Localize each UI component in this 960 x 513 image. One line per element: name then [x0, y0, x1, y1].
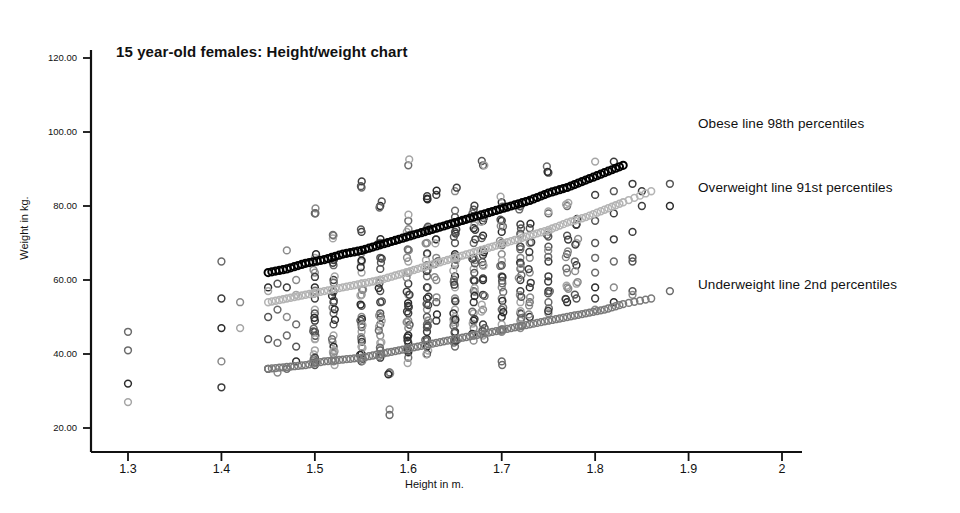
scatter-marker — [610, 258, 617, 265]
scatter-marker — [125, 328, 132, 335]
x-axis-tick-label: 1.7 — [482, 462, 522, 476]
scatter-marker — [610, 188, 617, 195]
scatter-marker — [293, 277, 300, 284]
scatter-marker — [218, 295, 225, 302]
scatter-marker — [666, 288, 673, 295]
scatter-marker — [312, 274, 319, 281]
scatter-marker — [332, 316, 339, 323]
y-axis-ticks — [83, 58, 91, 428]
scatter-marker — [527, 220, 534, 227]
scatter-marker — [237, 325, 244, 332]
scatter-marker — [283, 247, 290, 254]
scatter-marker — [610, 210, 617, 217]
scatter-marker — [629, 229, 636, 236]
scatter-marker — [274, 306, 281, 313]
scatter-marker — [592, 217, 599, 224]
x-axis-ticks — [128, 452, 782, 461]
scatter-marker — [592, 192, 599, 199]
scatter-marker — [592, 269, 599, 276]
scatter-points-layer — [125, 156, 674, 418]
y-axis-title: Weight in kg. — [18, 178, 30, 278]
y-axis-tick-label: 120.00 — [33, 52, 77, 63]
scatter-marker — [237, 299, 244, 306]
scatter-marker — [610, 284, 617, 291]
scatter-marker — [433, 294, 440, 301]
scatter-marker — [629, 180, 636, 187]
x-axis-tick-label: 1.4 — [201, 462, 241, 476]
scatter-marker — [218, 384, 225, 391]
scatter-marker — [125, 347, 132, 354]
scatter-marker — [432, 240, 439, 247]
scatter-marker — [218, 358, 225, 365]
scatter-marker — [293, 343, 300, 350]
scatter-marker — [274, 340, 281, 347]
scatter-marker — [433, 187, 440, 194]
scatter-marker — [610, 236, 617, 243]
scatter-marker — [125, 380, 132, 387]
scatter-marker — [666, 180, 673, 187]
scatter-marker — [283, 314, 290, 321]
y-axis-tick-label: 20.00 — [33, 422, 77, 433]
chart-title: 15 year-old females: Height/weight chart — [116, 43, 408, 60]
scatter-marker — [592, 240, 599, 247]
scatter-marker — [592, 295, 599, 302]
plot-area — [0, 0, 960, 513]
annotation-obese-line: Obese line 98th percentiles — [698, 116, 864, 131]
scatter-marker — [218, 258, 225, 265]
scatter-marker — [283, 284, 290, 291]
scatter-marker — [274, 280, 281, 287]
scatter-marker — [283, 332, 290, 339]
y-axis-tick-label: 60.00 — [33, 274, 77, 285]
y-axis-tick-label: 80.00 — [33, 200, 77, 211]
scatter-marker — [125, 399, 132, 406]
scatter-marker — [265, 314, 272, 321]
annotation-underweight-line: Underweight line 2nd percentiles — [698, 277, 897, 292]
scatter-marker — [293, 321, 300, 328]
scatter-marker — [472, 226, 479, 233]
scatter-marker — [478, 308, 485, 315]
scatter-marker — [527, 294, 534, 301]
x-axis-title: Height in m. — [405, 478, 464, 490]
axis-lines — [91, 50, 802, 452]
scatter-marker — [592, 158, 599, 165]
scatter-marker — [666, 203, 673, 210]
scatter-marker — [563, 265, 570, 272]
x-axis-tick-label: 2 — [762, 462, 802, 476]
y-axis-tick-label: 100.00 — [33, 126, 77, 137]
scatter-marker — [527, 279, 534, 286]
scatter-marker — [218, 325, 225, 332]
x-axis-tick-label: 1.9 — [669, 462, 709, 476]
x-axis-tick-label: 1.5 — [295, 462, 335, 476]
x-axis-tick-label: 1.6 — [388, 462, 428, 476]
x-axis-tick-label: 1.8 — [575, 462, 615, 476]
annotation-overweight-line: Overweight line 91st percentiles — [698, 180, 893, 195]
x-axis-tick-label: 1.3 — [108, 462, 148, 476]
scatter-marker — [592, 254, 599, 261]
height-weight-scatter-chart: 15 year-old females: Height/weight chart… — [0, 0, 960, 513]
y-axis-tick-label: 40.00 — [33, 348, 77, 359]
scatter-marker — [592, 284, 599, 291]
scatter-marker — [265, 336, 272, 343]
scatter-marker — [425, 293, 432, 300]
scatter-marker — [330, 321, 337, 328]
scatter-marker — [638, 203, 645, 210]
